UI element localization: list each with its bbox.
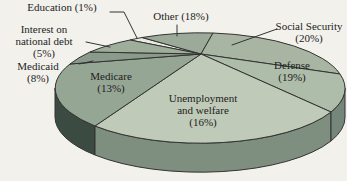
interest-label-line2: national debt [0, 35, 88, 47]
medicare-label: Medicare (13%) [82, 70, 140, 94]
defense-label-line2: (19%) [262, 71, 322, 83]
other-label: Other (18%) [143, 10, 219, 22]
medicare-label-line1: Medicare [82, 70, 140, 82]
interest-leader-line [86, 42, 110, 47]
unemployment-label: Unemployment and welfare (16%) [158, 92, 248, 128]
social-security-label: Social Security (20%) [272, 20, 346, 44]
defense-label: Defense (19%) [262, 59, 322, 83]
unemployment-label-line1: Unemployment [158, 92, 248, 104]
social-security-label-line2: (20%) [272, 32, 346, 44]
interest-label: Interest on national debt (5%) [0, 23, 88, 59]
other-label-text: Other (18%) [143, 10, 219, 22]
social-security-label-line1: Social Security [272, 20, 346, 32]
unemployment-label-line2: and welfare [158, 104, 248, 116]
education-label-text: Education (1%) [12, 1, 112, 13]
education-leader-line [110, 12, 137, 38]
medicaid-label-line2: (8%) [6, 72, 70, 84]
medicare-label-line2: (13%) [82, 82, 140, 94]
medicaid-label: Medicaid (8%) [6, 60, 70, 84]
defense-label-line1: Defense [262, 59, 322, 71]
interest-label-line1: Interest on [0, 23, 88, 35]
education-label: Education (1%) [12, 1, 112, 13]
medicaid-label-line1: Medicaid [6, 60, 70, 72]
pie-chart: Education (1%) Other (18%) Social Securi… [0, 0, 347, 181]
interest-label-line3: (5%) [0, 47, 88, 59]
unemployment-label-line3: (16%) [158, 116, 248, 128]
